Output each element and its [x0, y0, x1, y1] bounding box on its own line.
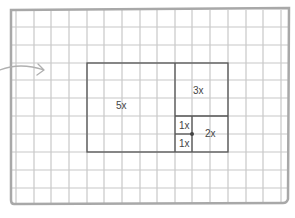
arrow-icon	[0, 64, 44, 75]
center-dot	[190, 132, 194, 136]
region-label: 3x	[193, 86, 204, 96]
region-label: 1x	[179, 139, 190, 149]
outer-border	[11, 8, 289, 204]
graph-paper-grid	[11, 10, 288, 203]
region-label: 1x	[179, 121, 190, 131]
region-label: 5x	[116, 101, 127, 111]
region-label: 2x	[205, 129, 216, 139]
grid-diagram	[0, 0, 295, 218]
